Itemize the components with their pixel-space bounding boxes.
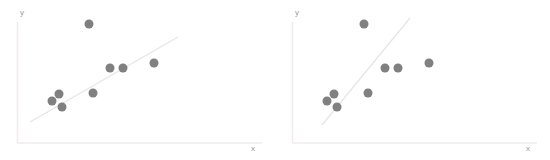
data-point-outlier [85,20,94,29]
data-point [89,89,98,98]
data-point [106,64,115,73]
data-point [55,90,64,99]
x-axis-label: x [526,145,530,153]
data-point [364,89,373,98]
data-point [119,64,128,73]
y-axis-label: y [295,9,299,17]
scatter-plot-left: y x [0,0,275,160]
data-point [381,64,390,73]
y-axis-label: y [20,9,24,17]
data-points-right [323,20,434,112]
data-points-left [48,20,159,112]
data-point [150,59,159,68]
figure-container: y x y x [0,0,550,160]
data-point [333,103,342,112]
data-point-outlier [360,20,369,29]
data-point [58,103,67,112]
data-point [425,59,434,68]
data-point [330,90,339,99]
data-point [323,97,332,106]
plot-canvas-right [275,0,550,160]
data-point [48,97,57,106]
x-axis-label: x [251,145,255,153]
scatter-plot-right: y x [275,0,550,160]
regression-line-left [30,37,178,122]
data-point [394,64,403,73]
plot-canvas-left [0,0,275,160]
